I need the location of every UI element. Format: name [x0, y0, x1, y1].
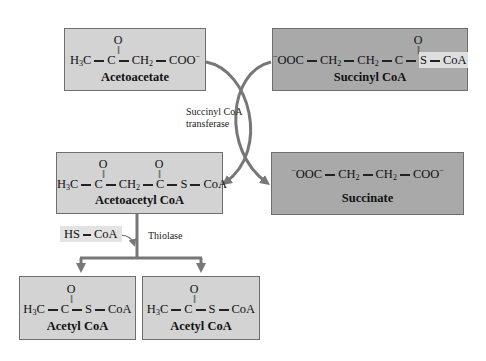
formula: H3CCCH2CSCoA: [57, 177, 222, 192]
carbonyl-oxygen: O||: [97, 159, 109, 176]
compound-name: Succinyl CoA: [273, 70, 467, 85]
coa-highlight: SCoA: [419, 52, 468, 68]
compound-name: Acetoacetyl CoA: [57, 193, 222, 208]
formula: H3CCCH2COO−: [65, 53, 205, 68]
compound-name: Acetoacetate: [65, 70, 205, 85]
carbonyl-oxygen: O||: [112, 35, 124, 52]
formula: H3CCSCoA: [143, 302, 259, 317]
compound-name: Succinate: [272, 191, 463, 206]
node-succinyl-coa: O|| −OOCCH2CH2CSCoA Succinyl CoA: [272, 28, 468, 91]
formula: −OOCCH2CH2COO−: [272, 167, 463, 182]
carbonyl-oxygen: O||: [65, 284, 77, 301]
node-acetoacetate: O|| H3CCCH2COO− Acetoacetate: [64, 28, 206, 91]
formula: H3CCSCoA: [20, 302, 135, 317]
formula: −OOCCH2CH2CSCoA: [273, 53, 467, 68]
enzyme-label-thiolase: Thiolase: [148, 230, 182, 242]
carbonyl-oxygen: O||: [153, 159, 165, 176]
compound-name: Acetyl CoA: [143, 319, 259, 334]
compound-name: Acetyl CoA: [20, 319, 135, 334]
node-succinate: −OOCCH2CH2COO− Succinate: [271, 152, 464, 215]
node-acetyl-coa-2: O|| H3CCSCoA Acetyl CoA: [142, 276, 260, 340]
enzyme-label-transferase: Succinyl CoA transferase: [186, 106, 242, 130]
carbonyl-oxygen: O||: [188, 284, 200, 301]
node-acetoacetyl-coa: O|| O|| H3CCCH2CSCoA Acetoacetyl CoA: [56, 152, 223, 214]
carbonyl-oxygen: O||: [412, 35, 424, 52]
node-acetyl-coa-1: O|| H3CCSCoA Acetyl CoA: [19, 276, 136, 340]
cofactor-hs-coa: HSCoA: [60, 226, 122, 242]
